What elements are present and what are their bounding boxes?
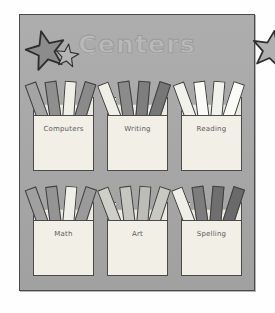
pocket-label: Computers [43,125,83,134]
pocket-front-panel[interactable]: Computers [33,115,94,171]
pocket-front-panel[interactable]: Math [33,220,94,276]
pocket-art[interactable]: Art [107,180,168,276]
board-header: Centers [20,23,254,75]
pocket-computers[interactable]: Computers [33,75,94,171]
pocket-front-panel[interactable]: Reading [181,115,242,171]
pocket-front-panel[interactable]: Spelling [181,220,242,276]
centers-board: Centers ComputersWritingReadingMathArtSp… [19,14,255,291]
pocket-front-panel[interactable]: Art [107,220,168,276]
pocket-label: Art [132,230,143,239]
board-title: Centers [20,30,254,60]
pocket-spelling[interactable]: Spelling [181,180,242,276]
pocket-front-panel[interactable]: Writing [107,115,168,171]
pocket-reading[interactable]: Reading [181,75,242,171]
pocket-label: Math [54,230,72,239]
pocket-writing[interactable]: Writing [107,75,168,171]
pocket-grid: ComputersWritingReadingMathArtSpelling [33,75,243,276]
pocket-label: Reading [197,125,227,134]
pocket-label: Spelling [197,230,227,239]
screenshot-canvas: Centers ComputersWritingReadingMathArtSp… [0,0,275,313]
pocket-math[interactable]: Math [33,180,94,276]
pocket-label: Writing [124,125,150,134]
